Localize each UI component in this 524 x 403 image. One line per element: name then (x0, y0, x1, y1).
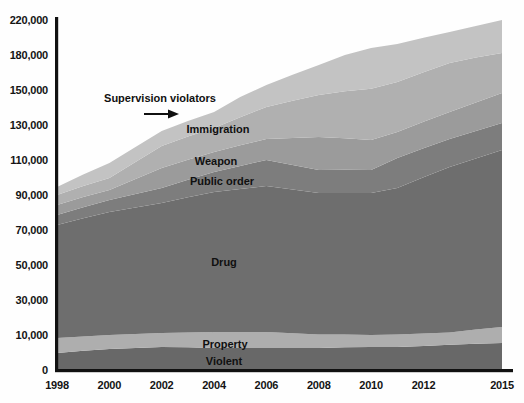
label-violent: Violent (206, 355, 242, 367)
x-tick-label: 2006 (244, 378, 288, 392)
y-tick-label: 30,000 (0, 293, 48, 307)
label-drug: Drug (211, 256, 237, 268)
x-tick-label: 2012 (401, 378, 445, 392)
x-tick-label: 2010 (349, 378, 393, 392)
y-tick-label: 10,000 (0, 328, 48, 342)
y-tick-label: 150,000 (0, 83, 48, 97)
x-tick-label: 2000 (87, 378, 131, 392)
x-tick-label: 2004 (192, 378, 236, 392)
x-tick-label: 2008 (297, 378, 341, 392)
y-tick-label: 220,000 (0, 13, 48, 27)
x-tick-label: 2015 (480, 378, 524, 392)
y-tick-label: 90,000 (0, 188, 48, 202)
arrow-right-icon (142, 108, 182, 120)
y-axis-line (55, 17, 58, 372)
label-supervision-violators: Supervision violators (104, 92, 216, 104)
chart-figure: 010,00030,00050,00070,00090,000110,00013… (0, 0, 524, 403)
label-public-order: Public order (190, 175, 254, 187)
label-weapon: Weapon (195, 155, 238, 167)
y-tick-label: 110,000 (0, 153, 48, 167)
label-property: Property (202, 338, 247, 350)
x-tick-label: 1998 (35, 378, 79, 392)
y-tick-label: 70,000 (0, 223, 48, 237)
label-immigration: Immigration (187, 123, 250, 135)
y-tick-label: 0 (0, 363, 48, 377)
x-tick-label: 2002 (140, 378, 184, 392)
y-tick-label: 130,000 (0, 118, 48, 132)
x-axis-line (55, 369, 513, 372)
stacked-area-chart (0, 0, 524, 403)
y-tick-label: 180,000 (0, 48, 48, 62)
y-tick-label: 50,000 (0, 258, 48, 272)
